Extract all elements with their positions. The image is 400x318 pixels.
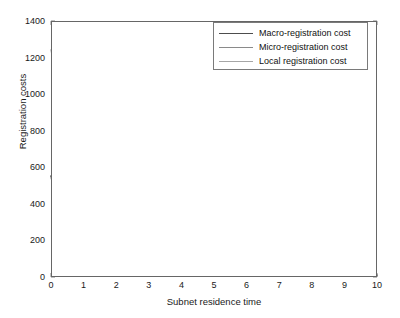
x-tick-label: 0 [39, 281, 63, 290]
legend-item-micro[interactable]: Micro-registration cost [214, 40, 367, 54]
legend-swatch-macro [219, 33, 253, 34]
x-tick-label: 9 [332, 281, 356, 290]
legend-item-macro[interactable]: Macro-registration cost [214, 26, 367, 40]
legend-swatch-local [219, 61, 253, 62]
y-tick-label: 200 [1, 236, 45, 245]
x-tick-label: 5 [202, 281, 226, 290]
legend-label-local: Local registration cost [259, 57, 347, 66]
x-tick-label: 3 [137, 281, 161, 290]
legend-label-macro: Macro-registration cost [259, 29, 351, 38]
legend-item-local[interactable]: Local registration cost [214, 54, 367, 68]
x-tick-label: 2 [104, 281, 128, 290]
x-tick-label: 7 [267, 281, 291, 290]
x-tick-label: 10 [365, 281, 389, 290]
x-tick-label: 4 [169, 281, 193, 290]
x-axis-label: Subnet residence time [51, 296, 377, 307]
y-axis-label: Registration costs [17, 42, 28, 182]
legend-swatch-micro [219, 47, 253, 48]
y-tick-label: 400 [1, 200, 45, 209]
x-tick-label: 1 [72, 281, 96, 290]
x-tick-label: 8 [300, 281, 324, 290]
chart-figure: 0200400600800100012001400 012345678910 R… [0, 0, 400, 318]
y-tick-label: 1400 [1, 17, 45, 26]
legend-label-micro: Micro-registration cost [259, 43, 348, 52]
chart-legend: Macro-registration cost Micro-registrati… [213, 22, 368, 70]
x-tick-label: 6 [235, 281, 259, 290]
